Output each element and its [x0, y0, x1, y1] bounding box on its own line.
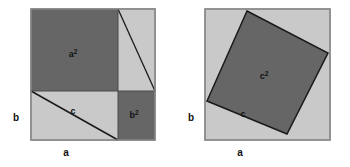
proof-diagram-canvas: a2 b2 c b a c2 c b a: [0, 0, 350, 167]
left-side-a-label: a: [63, 147, 69, 158]
left-side-b-label: b: [13, 112, 19, 123]
right-c-label: c: [240, 109, 245, 119]
pythagorean-proof-figure: a2 b2 c b a c2 c b a: [0, 0, 350, 167]
right-panel: c2 c b a: [188, 9, 330, 158]
right-side-a-label: a: [237, 147, 243, 158]
left-c-label: c: [70, 106, 75, 116]
right-side-b-label: b: [188, 112, 194, 123]
left-panel: a2 b2 c b a: [13, 9, 155, 158]
